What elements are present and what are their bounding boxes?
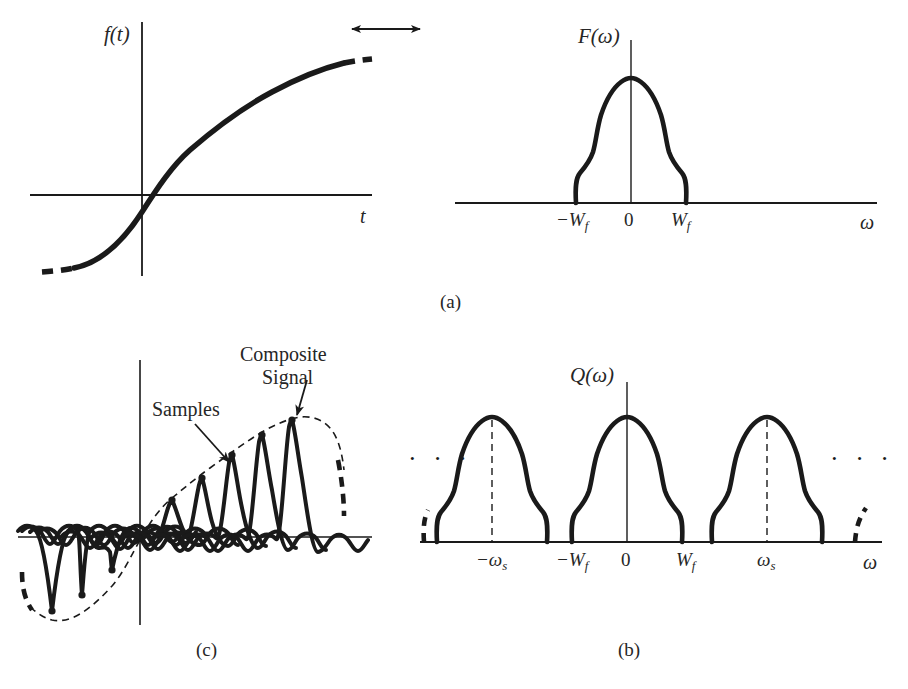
sample-dot — [78, 591, 85, 598]
tick-subscript: s — [770, 558, 775, 573]
tick-subscript: f — [687, 218, 691, 233]
signal-left-tail-dashed — [42, 268, 74, 272]
tick-subscript: f — [692, 558, 696, 573]
panel-a-spectrum — [455, 40, 877, 203]
sample-dot — [228, 451, 235, 458]
replica-tick-plus-omega-s: ωs — [757, 550, 775, 573]
t-axis-label: t — [360, 206, 366, 226]
samples-annotation-arrow-icon — [195, 424, 229, 462]
composite-signal-annotation-line2: Signal — [262, 367, 313, 387]
sample-dot — [198, 474, 205, 481]
tick-text: W — [676, 549, 692, 570]
sinc-family — [18, 420, 368, 611]
spectrum-tick-zero: 0 — [624, 210, 634, 229]
tick-subscript: s — [502, 558, 507, 573]
replica-stub-left-dashed — [424, 510, 428, 542]
envelope-left-tail-dashed — [22, 572, 32, 610]
caption-b: (b) — [618, 640, 640, 659]
panel-b-replicated-spectrum — [420, 382, 882, 542]
spectrum-tick-plus-Wf: Wf — [671, 210, 690, 233]
ellipsis-right: · · · — [830, 444, 894, 474]
tick-text: −W — [556, 549, 585, 570]
replica-stub-right-dashed — [855, 508, 866, 542]
replica-tick-minus-omega-s: −ωs — [476, 550, 507, 573]
sample-dot — [48, 607, 55, 614]
replica-tick-zero: 0 — [621, 550, 631, 569]
sample-dot — [168, 496, 175, 503]
samples-annotation: Samples — [152, 399, 220, 419]
f-of-t-axis-label: f(t) — [104, 24, 130, 45]
sampling-theorem-figure: f(t) t F(ω) −Wf 0 Wf ω (a) Composite Sig… — [0, 0, 908, 689]
spectrum-tick-minus-Wf: −Wf — [556, 210, 588, 233]
replica-tick-minus-Wf: −Wf — [556, 550, 588, 573]
panel-a-time-domain — [30, 22, 420, 276]
replica-tick-plus-Wf: Wf — [676, 550, 695, 573]
caption-a: (a) — [440, 292, 461, 311]
Q-of-omega-axis-label: Q(ω) — [570, 365, 614, 386]
signal-right-tail-dashed — [344, 59, 372, 63]
tick-text: −ω — [476, 549, 502, 570]
sample-dot — [288, 416, 295, 423]
composite-signal-annotation-line1: Composite — [240, 344, 327, 364]
tick-subscript: f — [585, 218, 589, 233]
tick-text: W — [671, 209, 687, 230]
ellipsis-left: · · · — [408, 444, 472, 474]
sample-dot — [258, 431, 265, 438]
signal-curve — [74, 63, 344, 268]
omega-axis-label-b: ω — [863, 552, 877, 572]
figure-drawing-layer — [0, 0, 908, 689]
tick-subscript: f — [585, 558, 589, 573]
omega-axis-label-a: ω — [860, 212, 874, 232]
F-of-omega-axis-label: F(ω) — [578, 26, 620, 47]
caption-c: (c) — [196, 640, 217, 659]
tick-text: ω — [757, 549, 770, 570]
sample-dot — [108, 566, 115, 573]
tick-text: −W — [556, 209, 585, 230]
